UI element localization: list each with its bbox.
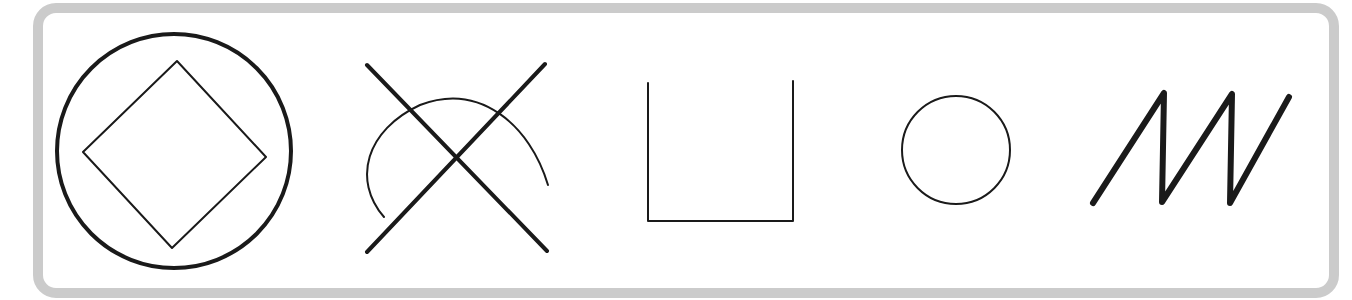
- figure-canvas: [0, 0, 1352, 300]
